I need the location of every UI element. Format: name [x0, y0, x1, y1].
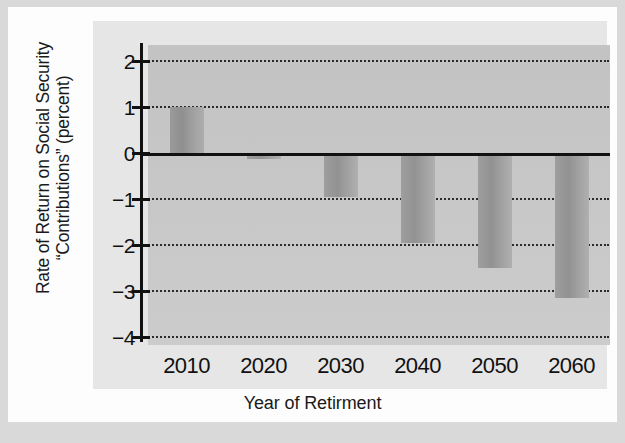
x-tick-label-2010: 2010: [163, 353, 210, 379]
bar-2010: [170, 107, 204, 153]
gridline-minus4: [141, 336, 609, 338]
gridline-2: [141, 60, 609, 62]
bar-chart-figure: Rate of Return on Social Security “Contr…: [8, 7, 617, 422]
x-tick-label-2040: 2040: [394, 353, 441, 379]
gridline-1: [141, 106, 609, 108]
y-tick-mark-5: [132, 290, 150, 293]
y-tick-mark-4: [132, 244, 150, 247]
y-tick-labels: 210−1−2−3−4: [93, 21, 141, 389]
scanned-page-background: Rate of Return on Social Security “Contr…: [0, 0, 625, 443]
zero-baseline: [141, 153, 610, 156]
bar-2030: [324, 153, 358, 197]
x-tick-label-2020: 2020: [240, 353, 287, 379]
bar-2060: [555, 153, 589, 298]
y-axis-title-line-2: “Contributions” (percent): [53, 76, 73, 261]
y-tick-mark-6: [132, 336, 150, 339]
gridline-minus1: [141, 198, 609, 200]
y-axis-spine: [140, 43, 143, 342]
plot-area: [148, 45, 610, 345]
y-axis-title: Rate of Return on Social Security “Contr…: [27, 3, 79, 333]
y-tick-mark-3: [132, 198, 150, 201]
y-tick-mark-1: [132, 106, 150, 109]
bar-2050: [478, 153, 512, 268]
x-axis-title: Year of Retirment: [8, 393, 617, 414]
paper-sheet: Rate of Return on Social Security “Contr…: [8, 7, 617, 422]
y-tick-mark-2: [132, 152, 150, 155]
y-tick-mark-0: [132, 60, 150, 63]
x-tick-label-2050: 2050: [471, 353, 518, 379]
bar-2040: [401, 153, 435, 243]
gridline-minus2: [141, 244, 609, 246]
gridline-minus3: [141, 290, 609, 292]
y-axis-title-line-1: Rate of Return on Social Security: [33, 42, 53, 294]
x-tick-label-2060: 2060: [548, 353, 595, 379]
x-tick-label-2030: 2030: [317, 353, 364, 379]
